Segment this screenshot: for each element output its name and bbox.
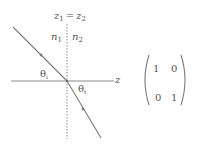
matrix-cell-r1-c0: 0: [155, 92, 161, 103]
medium1-label: n1: [51, 31, 62, 44]
incident-ray-arrow-dot: [40, 54, 43, 57]
medium2-label: n2: [72, 31, 83, 44]
matrix-cell-r1-c1: 1: [171, 92, 177, 103]
matrix-cell-r0-c0: 1: [153, 63, 159, 74]
interface-label: z1=z2: [53, 10, 86, 23]
intersection-point: [66, 80, 68, 82]
transmitted-ray-arrow-dot: [82, 108, 85, 111]
matrix-left-paren: [145, 55, 149, 105]
incident-angle-label: θi: [40, 68, 48, 80]
transmitted-angle-label: θt: [78, 83, 87, 95]
matrix-right-paren: [181, 55, 185, 105]
refraction-diagram: z1=z2 n1 n2 z θi θt 1 0 0 1: [0, 0, 197, 151]
axis-label: z: [114, 74, 121, 85]
matrix-cell-r0-c1: 0: [171, 63, 177, 74]
